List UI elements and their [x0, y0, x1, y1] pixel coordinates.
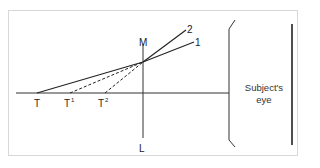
label-m: M: [139, 37, 147, 48]
label-t2-sup: 2: [105, 97, 109, 103]
eye-bracket: [229, 20, 235, 147]
label-t2: T: [98, 98, 104, 109]
label-t: T: [34, 98, 40, 109]
label-l: L: [139, 143, 145, 154]
ray-t2-dashed: [105, 62, 143, 93]
ray-1: [143, 42, 194, 62]
label-ray-2: 2: [187, 24, 193, 35]
ray-t1-dashed: [70, 62, 143, 93]
label-t1-sup: 1: [71, 97, 75, 103]
eye-label-line2: eye: [238, 94, 290, 106]
subject-eye-label: Subject's eye: [238, 82, 290, 106]
label-ray-1: 1: [195, 37, 201, 48]
ray-t-solid: [37, 62, 143, 93]
label-t1: T: [64, 98, 70, 109]
ray-2: [143, 30, 186, 62]
eye-label-line1: Subject's: [238, 82, 290, 94]
